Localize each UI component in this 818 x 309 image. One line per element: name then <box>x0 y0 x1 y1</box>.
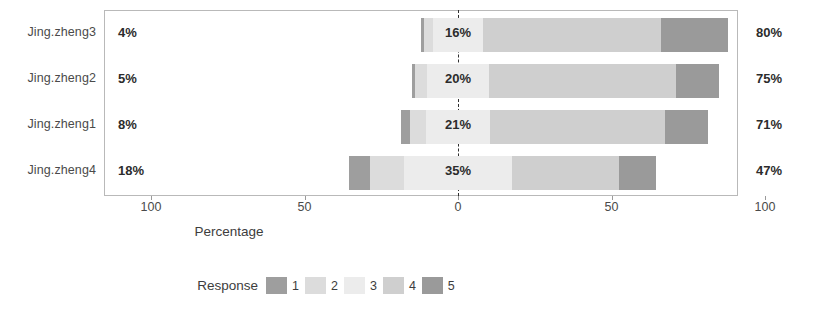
legend-label: 1 <box>292 279 299 293</box>
x-axis-title: Percentage <box>0 224 818 239</box>
row-center-percent-label: 35% <box>435 163 481 178</box>
row-center-percent-label: 20% <box>435 71 481 86</box>
bar-segment-response-2 <box>370 156 404 190</box>
category-label: Jing.zheng1 <box>0 117 96 131</box>
legend-item[interactable]: 5 <box>422 277 455 294</box>
row-right-percent-label: 71% <box>756 117 802 132</box>
bar-segment-response-2 <box>410 110 425 144</box>
legend-label: 3 <box>370 279 377 293</box>
row-left-percent-label: 5% <box>118 71 158 86</box>
legend-swatch-icon <box>305 277 326 294</box>
legend-label: 4 <box>409 279 416 293</box>
chart-row: Jing.zheng4 18% 35% 47% <box>0 150 818 196</box>
category-label: Jing.zheng4 <box>0 163 96 177</box>
bar-segment-response-4 <box>512 156 619 190</box>
bar-segment-response-5 <box>676 64 719 98</box>
legend-label: 5 <box>448 279 455 293</box>
x-axis-tick-label: 50 <box>275 200 335 214</box>
x-axis-tick-label: 50 <box>582 200 642 214</box>
row-left-percent-label: 8% <box>118 117 158 132</box>
bar-segment-response-5 <box>661 18 729 52</box>
category-label: Jing.zheng2 <box>0 71 96 85</box>
legend-swatch-icon <box>266 277 287 294</box>
bar-segment-response-4 <box>489 64 676 98</box>
legend-swatch-icon <box>383 277 404 294</box>
likert-diverging-bar-chart: Jing.zheng3 4% 16% 80% Jing.zheng2 5% 20… <box>0 0 818 309</box>
legend: Response 12345 <box>0 277 818 294</box>
row-left-percent-label: 4% <box>118 25 158 40</box>
legend-item[interactable]: 1 <box>266 277 299 294</box>
chart-row: Jing.zheng2 5% 20% 75% <box>0 58 818 104</box>
row-right-percent-label: 75% <box>756 71 802 86</box>
stacked-bar <box>349 156 656 190</box>
row-right-percent-label: 80% <box>756 25 802 40</box>
row-right-percent-label: 47% <box>756 163 802 178</box>
legend-item[interactable]: 4 <box>383 277 416 294</box>
chart-row: Jing.zheng1 8% 21% 71% <box>0 104 818 150</box>
bar-segment-response-4 <box>483 18 661 52</box>
bar-segment-response-1 <box>349 156 370 190</box>
bar-segment-response-2 <box>415 64 427 98</box>
legend-swatch-icon <box>422 277 443 294</box>
x-axis-tick-label: 0 <box>428 200 488 214</box>
category-label: Jing.zheng3 <box>0 25 96 39</box>
legend-item[interactable]: 2 <box>305 277 338 294</box>
bar-segment-response-5 <box>665 110 708 144</box>
legend-label: 2 <box>331 279 338 293</box>
chart-row: Jing.zheng3 4% 16% 80% <box>0 12 818 58</box>
x-axis-tick-label: 100 <box>121 200 181 214</box>
legend-swatch-icon <box>344 277 365 294</box>
x-axis-title-text: Percentage <box>194 224 263 239</box>
x-axis-tick-label: 100 <box>735 200 795 214</box>
row-center-percent-label: 21% <box>435 117 481 132</box>
legend-title: Response <box>197 278 258 293</box>
bar-segment-response-4 <box>490 110 665 144</box>
legend-item[interactable]: 3 <box>344 277 377 294</box>
row-center-percent-label: 16% <box>435 25 481 40</box>
bar-segment-response-5 <box>619 156 656 190</box>
bar-segment-response-2 <box>424 18 433 52</box>
row-left-percent-label: 18% <box>118 163 158 178</box>
bar-segment-response-1 <box>401 110 410 144</box>
